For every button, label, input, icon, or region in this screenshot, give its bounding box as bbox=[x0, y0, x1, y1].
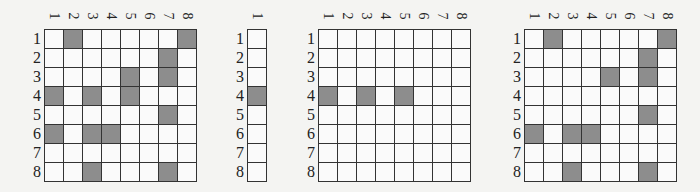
row-label: 8 bbox=[27, 162, 41, 181]
grid-cell-empty bbox=[563, 144, 581, 162]
grid-cell-filled bbox=[639, 68, 657, 86]
row-label: 8 bbox=[507, 162, 521, 181]
column-label: 6 bbox=[416, 7, 430, 26]
grid-cell-empty bbox=[338, 30, 356, 48]
grid-cell-empty bbox=[319, 125, 337, 143]
grid-cell-empty bbox=[102, 68, 120, 86]
grid-cell-empty bbox=[83, 49, 101, 67]
grid-cell-empty bbox=[544, 68, 562, 86]
cell-grid bbox=[318, 29, 471, 182]
grid-cell-empty bbox=[658, 68, 676, 86]
grid-cell-empty bbox=[319, 30, 337, 48]
grid-cell-empty bbox=[620, 125, 638, 143]
row-label: 8 bbox=[230, 162, 244, 181]
row-label: 7 bbox=[301, 143, 315, 162]
column-label: 6 bbox=[142, 7, 156, 26]
grid-cell-filled bbox=[83, 87, 101, 105]
column-label: 2 bbox=[546, 7, 560, 26]
column-label: 6 bbox=[622, 7, 636, 26]
grid-cell-empty bbox=[248, 106, 266, 124]
grid-cell-filled bbox=[582, 125, 600, 143]
grid-cell-empty bbox=[414, 30, 432, 48]
column-label: 7 bbox=[641, 7, 655, 26]
grid-cell-empty bbox=[319, 144, 337, 162]
column-label: 7 bbox=[435, 7, 449, 26]
grid-cell-empty bbox=[544, 49, 562, 67]
grid-cell-empty bbox=[140, 125, 158, 143]
grid-cell-empty bbox=[319, 106, 337, 124]
grid-cell-filled bbox=[159, 163, 177, 181]
grid-cell-empty bbox=[121, 144, 139, 162]
grid-cell-empty bbox=[582, 49, 600, 67]
grid-cell-empty bbox=[433, 163, 451, 181]
grid-cell-filled bbox=[121, 68, 139, 86]
column-labels: 12345678 bbox=[44, 9, 196, 23]
grid-cell-empty bbox=[248, 68, 266, 86]
grid-cell-filled bbox=[83, 125, 101, 143]
grid-cell-empty bbox=[357, 68, 375, 86]
grid-cell-empty bbox=[525, 49, 543, 67]
grid-cell-empty bbox=[620, 87, 638, 105]
grid-cell-empty bbox=[64, 106, 82, 124]
grid-cell-empty bbox=[658, 144, 676, 162]
grid-cell-empty bbox=[620, 49, 638, 67]
grid-cell-empty bbox=[83, 144, 101, 162]
grid-cell-filled bbox=[248, 87, 266, 105]
row-label: 7 bbox=[230, 143, 244, 162]
grid-cell-empty bbox=[178, 163, 196, 181]
grid-cell-empty bbox=[357, 125, 375, 143]
grid-cell-empty bbox=[64, 144, 82, 162]
row-label: 6 bbox=[507, 124, 521, 143]
grid-cell-empty bbox=[140, 87, 158, 105]
grid-cell-empty bbox=[601, 49, 619, 67]
grid-cell-filled bbox=[45, 125, 63, 143]
grid-cell-empty bbox=[639, 87, 657, 105]
grid-cell-empty bbox=[159, 87, 177, 105]
column-label: 3 bbox=[565, 7, 579, 26]
row-label: 5 bbox=[301, 105, 315, 124]
grid-cell-empty bbox=[658, 106, 676, 124]
grid-cell-empty bbox=[121, 30, 139, 48]
column-labels: 12345678 bbox=[524, 9, 676, 23]
grid-cell-empty bbox=[525, 30, 543, 48]
row-label: 6 bbox=[230, 124, 244, 143]
grid-cell-empty bbox=[338, 49, 356, 67]
grid-cell-empty bbox=[338, 87, 356, 105]
grid-cell-empty bbox=[563, 49, 581, 67]
grid-cell-empty bbox=[620, 68, 638, 86]
grid-cell-empty bbox=[639, 144, 657, 162]
row-label: 3 bbox=[301, 67, 315, 86]
grid-cell-empty bbox=[248, 49, 266, 67]
grid-cell-empty bbox=[319, 163, 337, 181]
grid-cell-empty bbox=[452, 68, 470, 86]
grid-cell-empty bbox=[376, 125, 394, 143]
grid-cell-empty bbox=[159, 125, 177, 143]
grid-cell-empty bbox=[121, 125, 139, 143]
grid-cell-empty bbox=[395, 49, 413, 67]
row-label: 4 bbox=[230, 86, 244, 105]
grid-cell-empty bbox=[601, 30, 619, 48]
grid-cell-empty bbox=[563, 68, 581, 86]
grid-cell-empty bbox=[121, 49, 139, 67]
grid-cell-empty bbox=[544, 144, 562, 162]
grid-cell-empty bbox=[525, 68, 543, 86]
grid-cell-empty bbox=[140, 163, 158, 181]
row-labels: 12345678 bbox=[301, 29, 315, 181]
grid-cell-empty bbox=[357, 30, 375, 48]
column-label: 7 bbox=[161, 7, 175, 26]
grid-cell-empty bbox=[45, 163, 63, 181]
grid-cell-empty bbox=[159, 30, 177, 48]
column-label: 4 bbox=[104, 7, 118, 26]
grid-cell-empty bbox=[45, 68, 63, 86]
grid-cell-filled bbox=[639, 163, 657, 181]
grid-cell-empty bbox=[582, 106, 600, 124]
grid-cell-empty bbox=[601, 144, 619, 162]
grid-cell-empty bbox=[563, 30, 581, 48]
grid-cell-empty bbox=[248, 30, 266, 48]
row-label: 1 bbox=[301, 29, 315, 48]
grid-cell-empty bbox=[620, 163, 638, 181]
grid-cell-empty bbox=[64, 49, 82, 67]
row-label: 3 bbox=[27, 67, 41, 86]
grid-cell-empty bbox=[178, 49, 196, 67]
grid-cell-empty bbox=[658, 125, 676, 143]
